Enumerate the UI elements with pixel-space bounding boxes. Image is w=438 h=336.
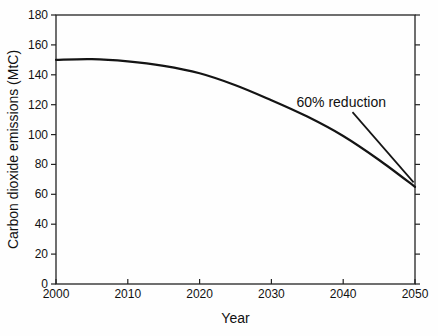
- annotation-label: 60% reduction: [297, 94, 387, 110]
- figure-co2-emissions: 0204060801001201401601802000201020202030…: [0, 0, 438, 336]
- y-tick-label: 160: [28, 38, 48, 52]
- plot-frame: [56, 15, 415, 284]
- y-tick-label: 40: [35, 217, 49, 231]
- x-tick-label: 2030: [258, 287, 285, 301]
- y-tick-label: 20: [35, 247, 49, 261]
- x-axis-title: Year: [221, 310, 250, 326]
- x-tick-label: 2000: [43, 287, 70, 301]
- emissions-line-chart: 0204060801001201401601802000201020202030…: [0, 0, 438, 336]
- axes-group: 0204060801001201401601802000201020202030…: [28, 8, 429, 301]
- y-tick-label: 100: [28, 128, 48, 142]
- x-tick-label: 2010: [114, 287, 141, 301]
- y-tick-label: 60: [35, 187, 49, 201]
- x-tick-label: 2020: [186, 287, 213, 301]
- y-axis-title: Carbon dioxide emissions (MtC): [5, 50, 21, 249]
- y-tick-label: 180: [28, 8, 48, 22]
- y-tick-label: 120: [28, 98, 48, 112]
- x-tick-label: 2050: [402, 287, 429, 301]
- y-tick-label: 80: [35, 157, 49, 171]
- y-tick-label: 140: [28, 68, 48, 82]
- x-tick-label: 2040: [330, 287, 357, 301]
